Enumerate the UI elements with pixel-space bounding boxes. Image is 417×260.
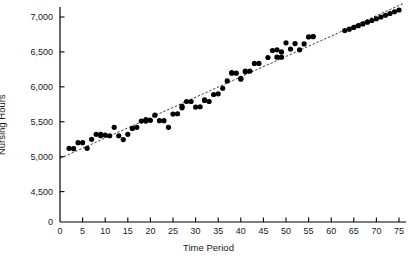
x-tick-label: 75 — [394, 227, 404, 236]
x-tick-label: 25 — [168, 227, 178, 236]
x-tick-label: 20 — [145, 227, 155, 236]
x-tick-label: 70 — [371, 227, 381, 236]
y-tick-label: 6,000 — [30, 82, 53, 91]
x-tick-label: 65 — [349, 227, 359, 236]
y-tick-label: 7,000 — [30, 12, 53, 21]
x-tick-label: 60 — [326, 227, 336, 236]
y-tick-label: 4,500 — [30, 187, 53, 196]
tick-marks — [60, 17, 399, 222]
x-tick-label: 30 — [191, 227, 201, 236]
x-tick-label: 10 — [100, 227, 110, 236]
y-tick-label: 6,500 — [30, 47, 53, 56]
data-points — [66, 7, 401, 151]
x-tick-label: 5 — [80, 227, 85, 236]
x-tick-label: 55 — [304, 227, 314, 236]
y-axis-title: Nursing Hours — [0, 94, 7, 155]
x-tick-label: 40 — [236, 227, 246, 236]
plot-area — [0, 0, 417, 260]
x-axis-title: Time Period — [0, 243, 417, 253]
nursing-hours-scatter-chart: 4,5005,0005,5006,0006,5007,0000 05101520… — [0, 0, 417, 260]
x-tick-label: 0 — [57, 227, 62, 236]
x-tick-label: 15 — [123, 227, 133, 236]
y-tick-label: 5,000 — [30, 152, 53, 161]
axis-lines — [60, 7, 406, 222]
y-zero-label: 0 — [48, 218, 53, 227]
y-tick-label: 5,500 — [30, 117, 53, 126]
x-tick-label: 45 — [258, 227, 268, 236]
x-tick-label: 35 — [213, 227, 223, 236]
x-tick-label: 50 — [281, 227, 291, 236]
